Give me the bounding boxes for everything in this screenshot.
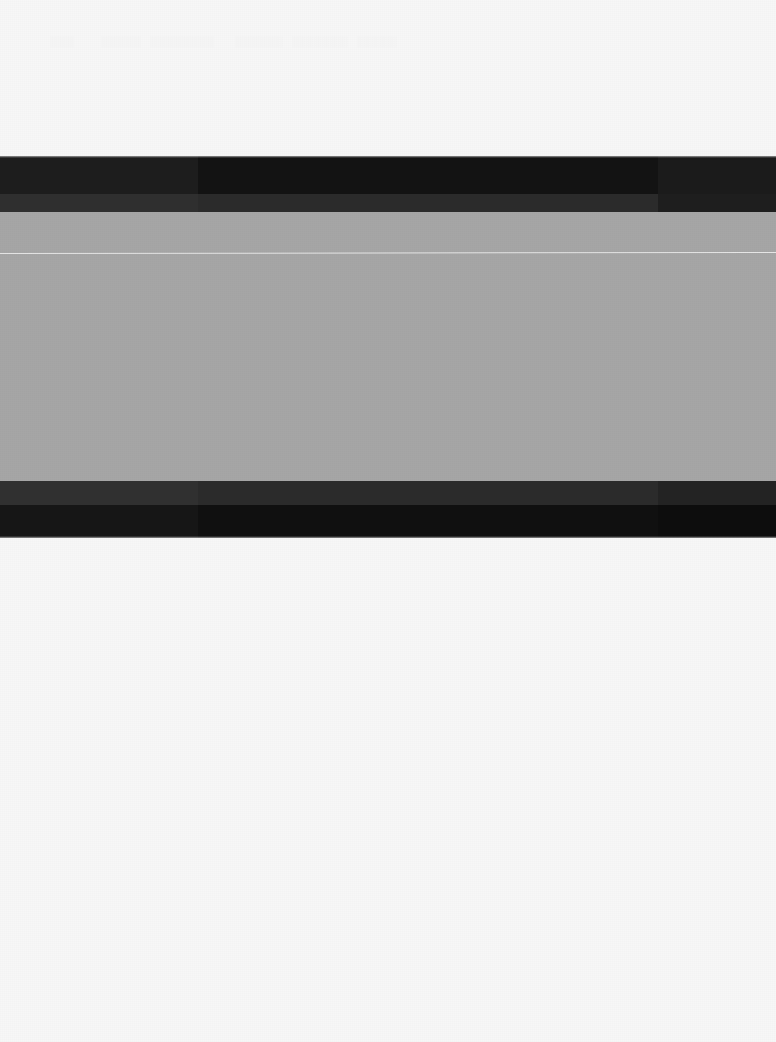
band-bottom-mid-segment-left bbox=[0, 481, 198, 505]
band-bottom-dark bbox=[0, 505, 776, 538]
ghost-text-fragment-4: ░░░░░░ bbox=[235, 33, 283, 49]
band-bottom-mid-segment-middle bbox=[198, 481, 658, 505]
ghost-text-fragment-6: ░░░░░ bbox=[357, 33, 397, 49]
band-top-mid-segment-left bbox=[0, 194, 198, 212]
band-top-mid-segment-right bbox=[658, 194, 776, 212]
ghost-text-fragment-2: ░░░░░ bbox=[101, 33, 141, 49]
band-top-dark bbox=[0, 156, 776, 194]
band-bottom-mid-segment-right bbox=[658, 481, 776, 505]
band-top-dark-segment-right bbox=[658, 156, 776, 194]
band-bottom-dark-segment-right bbox=[658, 505, 776, 538]
band-top-mid bbox=[0, 194, 776, 212]
ghost-text-fragment-3: ░░░░░░░░ bbox=[150, 33, 214, 49]
banded-block bbox=[0, 156, 776, 538]
band-bottom-mid bbox=[0, 481, 776, 505]
screenshot-canvas: ░░░ ░░░░░ ░░░░░░░░ ░░░░░░ ░░░░░░░ ░░░░░ bbox=[0, 0, 776, 1042]
band-top-dark-segment-middle bbox=[198, 156, 658, 194]
band-top-mid-segment-middle bbox=[198, 194, 658, 212]
band-bottom-dark-segment-middle bbox=[198, 505, 658, 538]
band-bottom-dark-segment-left bbox=[0, 505, 198, 538]
lower-blank-region bbox=[0, 538, 776, 1042]
band-top-dark-segment-left bbox=[0, 156, 198, 194]
ghost-text-fragment-1: ░░░ bbox=[50, 33, 74, 49]
ghost-text-row: ░░░ ░░░░░ ░░░░░░░░ ░░░░░░ ░░░░░░░ ░░░░░ bbox=[50, 33, 442, 49]
ghost-text-fragment-5: ░░░░░░░ bbox=[292, 33, 348, 49]
